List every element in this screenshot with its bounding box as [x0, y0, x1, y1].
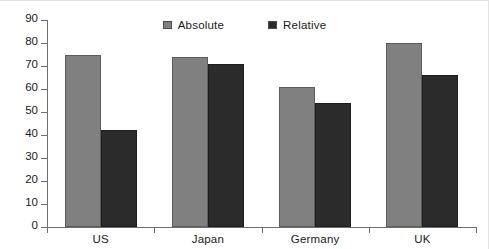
y-axis-tick-label: 20: [0, 173, 38, 185]
bar-japan-relative[interactable]: [208, 64, 244, 227]
bar-us-absolute[interactable]: [65, 55, 101, 228]
bar-uk-relative[interactable]: [422, 75, 458, 227]
plot-area: [47, 20, 475, 227]
y-axis-tick-label: 80: [0, 35, 38, 47]
y-axis-tick-label: 30: [0, 150, 38, 162]
y-axis-tick-label: 90: [0, 12, 38, 24]
y-axis-tick-label: 0: [0, 219, 38, 231]
y-axis-tick-label: 50: [0, 104, 38, 116]
bar-us-relative[interactable]: [101, 130, 137, 227]
x-axis-category-label-germany: Germany: [262, 233, 369, 245]
y-axis-tick-label: 60: [0, 81, 38, 93]
y-axis-tick-label: 40: [0, 127, 38, 139]
bar-japan-absolute[interactable]: [172, 57, 208, 227]
x-axis-end-tick: [476, 227, 477, 233]
x-axis-category-label-us: US: [47, 233, 154, 245]
bar-uk-absolute[interactable]: [386, 43, 422, 227]
bar-germany-relative[interactable]: [315, 103, 351, 227]
bar-germany-absolute[interactable]: [279, 87, 315, 227]
y-axis-tick-label: 70: [0, 58, 38, 70]
x-axis-category-label-japan: Japan: [154, 233, 261, 245]
chart-figure: AbsoluteRelative 0102030405060708090 USJ…: [0, 0, 489, 249]
x-axis-end-tick: [47, 227, 48, 233]
x-axis-category-label-uk: UK: [369, 233, 476, 245]
y-axis-tick-label: 10: [0, 196, 38, 208]
